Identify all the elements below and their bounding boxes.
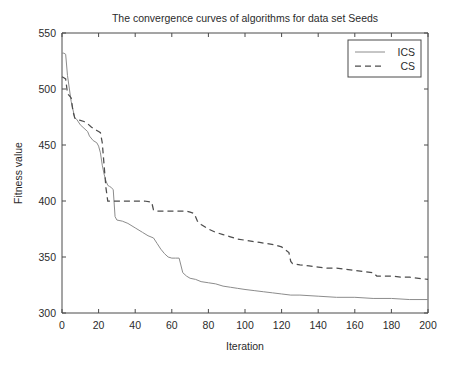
legend-label-cs: CS (400, 60, 415, 72)
x-tick-label: 60 (166, 319, 178, 331)
x-tick-label: 160 (346, 319, 364, 331)
y-tick-label: 300 (38, 307, 56, 319)
x-tick-label: 180 (383, 319, 401, 331)
y-axis-label: Fitness value (12, 142, 24, 204)
y-tick-label: 500 (38, 83, 56, 95)
y-tick-label: 550 (38, 27, 56, 39)
x-tick-label: 200 (419, 319, 437, 331)
convergence-chart: The convergence curves of algorithms for… (0, 0, 454, 368)
legend-label-ics: ICS (397, 46, 415, 58)
x-axis-label: Iteration (226, 340, 264, 352)
x-tick-label: 0 (59, 319, 65, 331)
chart-title: The convergence curves of algorithms for… (112, 12, 378, 24)
legend: ICS CS (348, 40, 421, 77)
y-tick-label: 400 (38, 195, 56, 207)
x-tick-label: 40 (129, 319, 141, 331)
y-tick-label: 350 (38, 251, 56, 263)
x-tick-label: 20 (93, 319, 105, 331)
x-tick-label: 100 (236, 319, 254, 331)
y-tick-label: 450 (38, 139, 56, 151)
x-tick-label: 120 (273, 319, 291, 331)
chart-figure: The convergence curves of algorithms for… (0, 0, 454, 368)
x-tick-label: 140 (309, 319, 327, 331)
x-tick-label: 80 (203, 319, 215, 331)
